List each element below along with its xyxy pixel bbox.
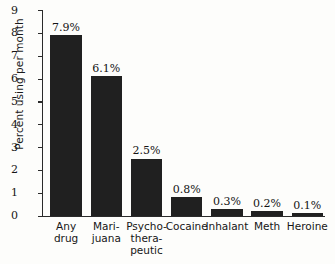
y-tick-mark	[38, 147, 43, 148]
bar	[131, 159, 163, 216]
bar-value-label: 6.1%	[82, 63, 130, 74]
y-tick-mark	[38, 79, 43, 80]
bar	[292, 213, 324, 215]
bar-value-label: 0.1%	[283, 200, 331, 211]
y-tick-label: 2	[0, 164, 18, 175]
y-tick-mark	[38, 10, 43, 11]
y-tick-label: 5	[0, 96, 18, 107]
y-tick-label: 6	[0, 73, 18, 84]
bar-value-label: 0.8%	[163, 184, 211, 195]
y-tick-label: 4	[0, 119, 18, 130]
y-tick-label: 3	[0, 142, 18, 153]
y-tick-mark	[38, 193, 43, 194]
chart-figure: Percent using per month 0123456789 7.9%6…	[0, 0, 335, 264]
y-tick-mark	[38, 56, 43, 57]
bar	[251, 211, 283, 216]
y-tick-mark	[38, 216, 43, 217]
y-tick-mark	[38, 101, 43, 102]
bar	[91, 76, 123, 215]
y-tick-mark	[38, 124, 43, 125]
y-tick-label: 1	[0, 187, 18, 198]
bar	[50, 35, 82, 215]
x-category-label: Heroine	[281, 221, 333, 233]
y-tick-label: 9	[0, 5, 18, 16]
y-tick-label: 8	[0, 27, 18, 38]
plot-area: 0123456789 7.9%6.1%2.5%0.8%0.3%0.2%0.1%	[42, 10, 325, 217]
x-axis-line	[42, 216, 325, 217]
bar	[211, 209, 243, 216]
y-tick-label: 7	[0, 50, 18, 61]
bar	[171, 197, 203, 215]
bar-value-label: 7.9%	[42, 22, 90, 33]
y-tick-mark	[38, 170, 43, 171]
y-tick-label: 0	[0, 210, 18, 221]
bar-value-label: 2.5%	[123, 145, 171, 156]
y-axis-line	[42, 10, 43, 217]
